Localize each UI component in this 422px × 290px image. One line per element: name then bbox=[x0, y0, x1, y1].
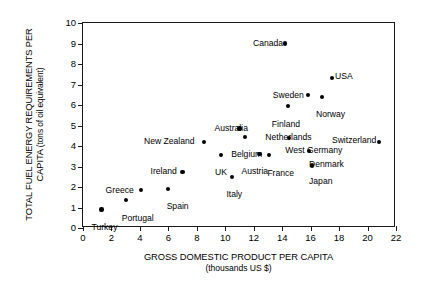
data-point-marker bbox=[257, 152, 261, 156]
x-tick-label-8: 8 bbox=[194, 233, 199, 243]
y-axis-title-line1: TOTAL FUEL ENERGY bbox=[24, 126, 34, 221]
data-point-label: Spain bbox=[167, 202, 189, 211]
data-point-label: Norway bbox=[316, 110, 345, 119]
x-tick-label-4: 4 bbox=[137, 233, 142, 243]
y-tick-6 bbox=[78, 105, 83, 106]
data-point-label: Australia bbox=[215, 124, 248, 133]
x-tick-6 bbox=[168, 226, 169, 231]
plot-area: 012345678910 0246810121416182022 TurkeyP… bbox=[82, 22, 395, 227]
data-point-marker bbox=[283, 41, 287, 45]
x-tick-14 bbox=[282, 226, 283, 231]
y-tick-label-10: 10 bbox=[65, 18, 76, 28]
scatter-plot-figure: 012345678910 0246810121416182022 TurkeyP… bbox=[0, 0, 422, 290]
x-tick-label-12: 12 bbox=[248, 233, 259, 243]
x-tick-12 bbox=[254, 226, 255, 231]
data-point-label: Finland bbox=[272, 120, 300, 129]
data-point-label: Sweden bbox=[273, 91, 304, 100]
x-tick-label-0: 0 bbox=[80, 233, 85, 243]
y-axis-title-units: (tons of oil equivalent) bbox=[35, 68, 45, 148]
x-tick-10 bbox=[225, 226, 226, 231]
data-point-label: France bbox=[267, 169, 294, 178]
y-tick-label-8: 8 bbox=[71, 59, 76, 69]
x-tick-label-18: 18 bbox=[334, 233, 345, 243]
data-point-marker bbox=[267, 153, 271, 157]
x-tick-label-14: 14 bbox=[277, 233, 288, 243]
y-tick-label-0: 0 bbox=[71, 223, 76, 233]
y-tick-label-9: 9 bbox=[71, 39, 76, 49]
y-tick-label-3: 3 bbox=[71, 162, 76, 172]
y-tick-4 bbox=[78, 146, 83, 147]
data-point-label: Italy bbox=[226, 190, 242, 199]
data-point-label: Japan bbox=[309, 177, 332, 186]
data-point-label: Netherlands bbox=[265, 133, 311, 142]
data-point-label: Switzerland bbox=[332, 136, 376, 145]
x-tick-label-16: 16 bbox=[305, 233, 316, 243]
data-point-label: Ireland bbox=[151, 167, 177, 176]
y-tick-label-6: 6 bbox=[71, 100, 76, 110]
y-tick-10 bbox=[78, 23, 83, 24]
data-point-marker bbox=[99, 207, 103, 211]
data-point-label: Greece bbox=[106, 186, 134, 195]
data-point-marker bbox=[377, 140, 381, 144]
data-point-marker bbox=[139, 188, 143, 192]
data-point-marker bbox=[230, 175, 234, 179]
data-point-label: Portugal bbox=[122, 214, 154, 223]
data-point-label: West Germany bbox=[285, 146, 342, 155]
x-tick-0 bbox=[83, 226, 84, 231]
y-tick-label-4: 4 bbox=[71, 141, 76, 151]
data-point-label: USA bbox=[335, 72, 353, 81]
data-point-marker bbox=[166, 187, 170, 191]
y-tick-8 bbox=[78, 64, 83, 65]
y-tick-label-7: 7 bbox=[71, 80, 76, 90]
y-tick-2 bbox=[78, 187, 83, 188]
data-point-marker bbox=[219, 153, 223, 157]
data-point-label: UK bbox=[215, 168, 227, 177]
x-tick-label-2: 2 bbox=[109, 233, 114, 243]
y-tick-9 bbox=[78, 44, 83, 45]
x-tick-18 bbox=[339, 226, 340, 231]
data-point-marker bbox=[124, 198, 128, 202]
x-tick-label-10: 10 bbox=[220, 233, 231, 243]
data-point-marker bbox=[202, 140, 206, 144]
x-tick-4 bbox=[140, 226, 141, 231]
data-point-label: Turkey bbox=[91, 223, 117, 232]
x-axis-title: GROSS DOMESTIC PRODUCT PER CAPITA (thous… bbox=[82, 252, 395, 274]
data-point-label: Denmark bbox=[309, 160, 344, 169]
y-axis-title: TOTAL FUEL ENERGY REQUIREMENTS PER CAPIT… bbox=[24, 22, 46, 227]
y-tick-label-2: 2 bbox=[71, 182, 76, 192]
data-point-label: New Zealand bbox=[144, 137, 195, 146]
y-tick-5 bbox=[78, 126, 83, 127]
x-tick-label-22: 22 bbox=[391, 233, 402, 243]
x-tick-20 bbox=[368, 226, 369, 231]
x-tick-16 bbox=[311, 226, 312, 231]
data-point-marker bbox=[243, 135, 247, 139]
x-tick-label-20: 20 bbox=[362, 233, 373, 243]
data-point-label: Canada bbox=[253, 39, 283, 48]
data-point-marker bbox=[180, 170, 184, 174]
x-tick-label-6: 6 bbox=[166, 233, 171, 243]
y-tick-3 bbox=[78, 167, 83, 168]
x-axis-title-units: (thousands US $) bbox=[82, 263, 395, 274]
y-tick-label-1: 1 bbox=[71, 203, 76, 213]
data-point-marker bbox=[286, 104, 290, 108]
y-tick-1 bbox=[78, 208, 83, 209]
x-axis-title-main: GROSS DOMESTIC PRODUCT PER CAPITA bbox=[82, 252, 395, 263]
data-point-label: Austria bbox=[241, 167, 268, 176]
y-tick-7 bbox=[78, 85, 83, 86]
data-point-marker bbox=[330, 76, 334, 80]
data-point-marker bbox=[306, 93, 310, 97]
data-point-marker bbox=[320, 95, 324, 99]
y-tick-label-5: 5 bbox=[71, 121, 76, 131]
x-tick-22 bbox=[396, 226, 397, 231]
x-tick-8 bbox=[197, 226, 198, 231]
